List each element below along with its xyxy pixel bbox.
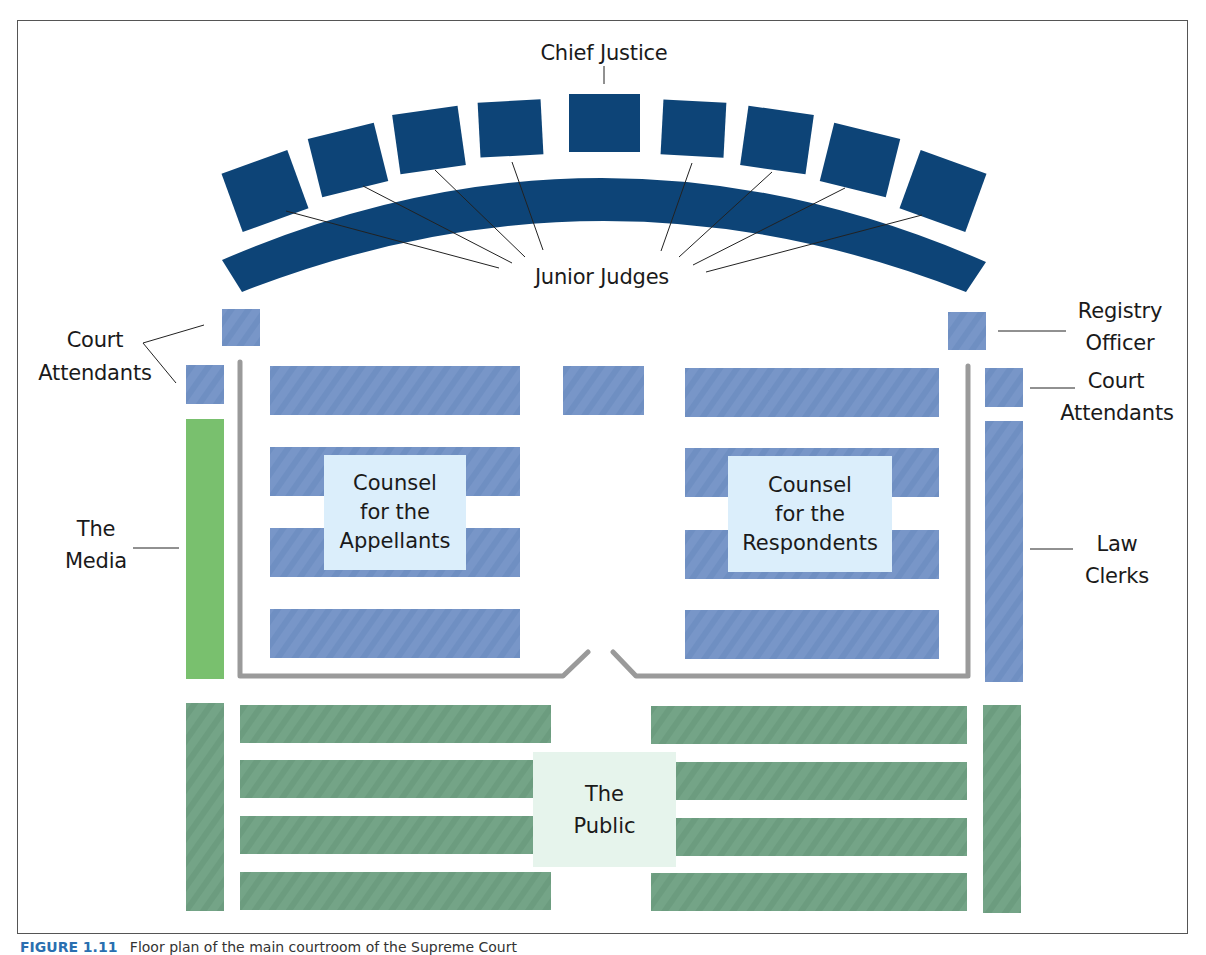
center-desk <box>563 366 644 415</box>
junior-judge-seat <box>900 150 987 232</box>
figure-number: FIGURE 1.11 <box>20 939 117 955</box>
junior-judge-seat <box>308 123 388 198</box>
appellant-bench <box>270 609 520 658</box>
chief-justice-seat <box>569 94 640 152</box>
court-attendant-seat <box>222 309 260 346</box>
counsel-respondents-label: Counsel for the Respondents <box>728 456 892 572</box>
figure-caption: FIGURE 1.11 Floor plan of the main court… <box>20 939 517 955</box>
court-attendant-seat <box>186 365 224 404</box>
junior-judges-label: Junior Judges <box>517 264 687 290</box>
court-attendant-seat <box>985 368 1023 407</box>
junior-judge-seat <box>392 106 466 175</box>
figure-caption-text: Floor plan of the main courtroom of the … <box>130 939 517 955</box>
junior-judge-seat <box>661 99 727 157</box>
registry-officer-seat <box>948 312 986 350</box>
chief-justice-label: Chief Justice <box>537 40 671 66</box>
media-area <box>186 419 224 679</box>
appellant-bench <box>270 366 520 415</box>
junior-judge-seat <box>740 106 814 175</box>
respondent-bench <box>685 368 939 417</box>
public-label: The Public <box>533 752 676 867</box>
junior-judge-seat <box>478 99 544 157</box>
counsel-appellants-label: Counsel for the Appellants <box>324 455 466 570</box>
law-clerks-area <box>985 421 1023 682</box>
junior-judge-seat <box>820 123 900 198</box>
junior-judge-seat <box>222 150 309 232</box>
respondent-bench <box>685 610 939 659</box>
